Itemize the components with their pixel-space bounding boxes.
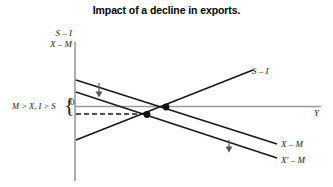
curve-label-x-prime-minus-m: X′ – M [281, 155, 305, 165]
curve-label-s-minus-i: S – I [252, 66, 269, 76]
vertical-axis-label: S – I X – M [40, 28, 72, 50]
horizontal-axis-label: Y [314, 108, 319, 118]
diagram-canvas: Impact of a decline in exports. S – I [0, 0, 333, 187]
curve-label-x-minus-m: X – M [281, 139, 303, 149]
origin-condition-label: M > X, I > S [12, 101, 56, 111]
marker-new-equilibrium [163, 104, 170, 111]
curve-x-minus-m [76, 80, 277, 144]
origin-label: 0 [70, 97, 75, 107]
curve-x-prime-minus-m [76, 92, 277, 158]
vertical-axis-label-line1: S – I [40, 28, 72, 39]
marker-original-equilibrium [144, 111, 151, 118]
shift-arrow-left-icon [96, 83, 103, 98]
vertical-axis-label-line2: X – M [40, 39, 72, 50]
